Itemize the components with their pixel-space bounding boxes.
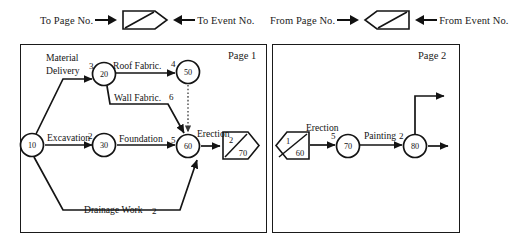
node-20-label: 20: [100, 70, 108, 79]
incoming-connector-page-no: 1: [286, 137, 290, 146]
node-70-label: 70: [344, 142, 352, 151]
node-10-label: 10: [28, 141, 36, 150]
label-material-delivery-line1: Material: [46, 52, 79, 63]
duration-drainage-work: 2: [152, 206, 157, 216]
duration-wall-fabric: 6: [169, 92, 174, 102]
outgoing-connector-event-no: 70: [239, 149, 247, 158]
duration-material-delivery: 3: [89, 61, 94, 71]
label-material-delivery-line2: Delivery: [46, 65, 80, 76]
node-30-label: 30: [100, 141, 108, 150]
label-painting: Painting: [364, 130, 396, 141]
label-roof-fabric: Roof Fabric.: [113, 60, 162, 71]
label-drainage-work: Drainage Work: [84, 204, 143, 215]
label-wall-fabric: Wall Fabric.: [114, 92, 161, 103]
duration-painting: 2: [399, 131, 404, 141]
incoming-connector-event-no: 60: [296, 149, 304, 158]
duration-foundation: 5: [171, 135, 176, 145]
label-foundation: Foundation: [119, 133, 163, 144]
label-excavation: Excavation: [47, 132, 90, 143]
duration-roof-fabric: 4: [171, 59, 176, 69]
duration-erection-page-2: 5: [331, 131, 336, 141]
incoming-connector-page-2: 1 60: [276, 132, 309, 159]
edge-drainage-work: [34, 157, 197, 210]
node-60-label: 60: [184, 142, 192, 151]
node-80-label: 80: [411, 142, 419, 151]
outgoing-connector-page-no: 2: [229, 136, 233, 145]
edge-material-delivery: [36, 79, 92, 134]
node-50-label: 50: [184, 68, 192, 77]
duration-excavation: 2: [88, 131, 93, 141]
label-erection-page-1: Erection: [197, 128, 230, 139]
edge-out-up-from-80: [415, 96, 444, 134]
